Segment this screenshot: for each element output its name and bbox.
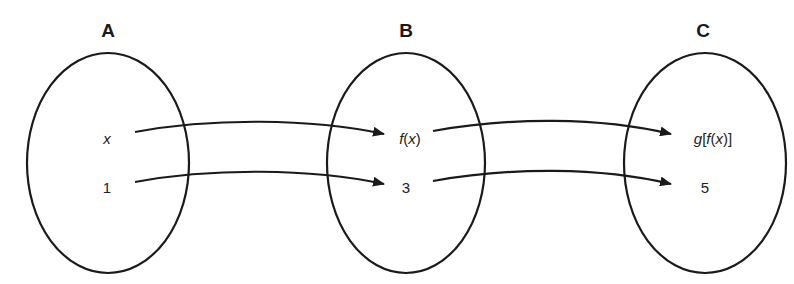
set-a-element-1: 1 [103,179,111,196]
set-b-ellipse [327,53,485,273]
set-a-label: A [101,20,115,41]
set-c-label: C [696,20,710,41]
set-c-element-5: 5 [701,179,709,196]
set-b-element-fx: f(x) [399,130,421,147]
set-b-element-3: 3 [402,179,410,196]
set-c-element-gfx: g[f(x)] [694,130,732,147]
set-a: A x 1 [27,20,189,273]
arrow-3-to-5 [433,171,671,184]
arrow-1-to-3 [135,172,384,184]
set-b: B f(x) 3 [327,20,485,273]
set-c-ellipse [624,53,786,273]
arrow-x-to-fx [135,122,384,134]
function-composition-diagram: A x 1 B f(x) 3 C g[f(x)] 5 [0,0,794,284]
set-a-ellipse [27,53,189,273]
arrow-fx-to-gfx [433,121,671,134]
set-a-element-x: x [102,130,111,147]
set-b-label: B [399,20,413,41]
set-c: C g[f(x)] 5 [624,20,786,273]
